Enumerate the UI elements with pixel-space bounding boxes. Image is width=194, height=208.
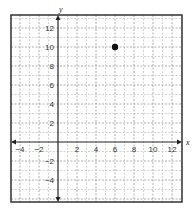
x-tick-label: 10 [149, 145, 158, 154]
y-tick-label: 10 [45, 43, 54, 52]
grid-lines [11, 15, 183, 202]
data-points [112, 44, 118, 50]
coordinate-plane: −4−224681012−4−224681012 x y [0, 0, 194, 208]
y-axis-label: y [58, 5, 63, 14]
y-tick-label: 2 [50, 119, 55, 128]
x-tick-label: 12 [168, 145, 177, 154]
y-tick-label: −2 [45, 157, 55, 166]
x-tick-label: 6 [113, 145, 118, 154]
x-tick-label: 4 [94, 145, 99, 154]
y-tick-label: 4 [50, 100, 55, 109]
x-tick-label: −2 [34, 145, 44, 154]
y-tick-label: 8 [50, 62, 55, 71]
plotted-point [112, 44, 118, 50]
plot-frame [11, 15, 182, 202]
x-axis-label: x [185, 138, 190, 147]
axes [11, 15, 182, 202]
y-tick-label: −4 [45, 176, 55, 185]
y-tick-label: 6 [50, 81, 55, 90]
y-tick-label: 12 [45, 24, 54, 33]
x-tick-label: 8 [132, 145, 137, 154]
x-tick-label: 2 [75, 145, 80, 154]
x-tick-label: −4 [15, 145, 25, 154]
